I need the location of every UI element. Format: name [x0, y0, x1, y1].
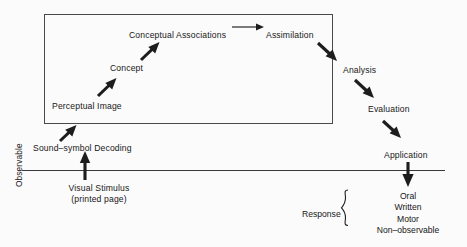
arrow-analysis-to-evaluation: [355, 80, 374, 98]
observable-axis-label: Observable: [15, 131, 27, 187]
response-brace: [342, 190, 349, 226]
node-sound-symbol-decoding: Sound–symbol Decoding: [33, 143, 132, 154]
node-evaluation: Evaluation: [368, 104, 410, 115]
node-visual-stimulus-line1: Visual Stimulus: [69, 183, 130, 194]
response-option-oral: Oral: [377, 191, 440, 202]
node-assimilation: Assimilation: [266, 30, 314, 41]
response-options-list: Oral Written Motor Non–observable: [377, 191, 440, 237]
diagram-canvas: Observable Perceptual Image Concept Conc…: [0, 0, 467, 247]
node-application: Application: [384, 150, 428, 161]
node-analysis: Analysis: [343, 65, 376, 76]
response-option-written: Written: [377, 202, 440, 213]
response-option-motor: Motor: [377, 214, 440, 225]
arrow-evaluation-to-application: [383, 121, 401, 138]
node-response-label: Response: [302, 209, 341, 219]
arrow-decoding-to-perceptual-image: [60, 125, 77, 141]
observable-boundary-line: [22, 170, 445, 171]
node-visual-stimulus-line2: (printed page): [71, 194, 127, 205]
node-concept: Concept: [110, 63, 143, 74]
arrow-visual-stimulus-to-decoding: [80, 151, 90, 180]
arrow-application-to-response: [402, 162, 413, 187]
node-conceptual-associations: Conceptual Associations: [129, 30, 226, 41]
node-perceptual-image: Perceptual Image: [52, 101, 122, 112]
response-option-non-observable: Non–observable: [377, 225, 440, 236]
